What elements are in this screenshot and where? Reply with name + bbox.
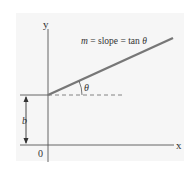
angle-label: θ bbox=[84, 82, 89, 93]
arrow-up-icon bbox=[24, 96, 29, 102]
slope-diagram: y x 0 b θ m = slope = tan θ bbox=[0, 0, 191, 171]
y-axis-label: y bbox=[43, 18, 49, 30]
slope-equation-label: m = slope = tan θ bbox=[81, 36, 147, 46]
arrow-down-icon bbox=[24, 138, 29, 144]
slope-theta-symbol: θ bbox=[142, 36, 147, 46]
slope-equation-text: = slope = tan bbox=[88, 36, 142, 46]
origin-label: 0 bbox=[38, 148, 43, 159]
intercept-label: b bbox=[22, 115, 27, 126]
angle-arc bbox=[79, 81, 82, 95]
sloped-line bbox=[48, 38, 173, 95]
x-axis-label: x bbox=[176, 139, 182, 151]
